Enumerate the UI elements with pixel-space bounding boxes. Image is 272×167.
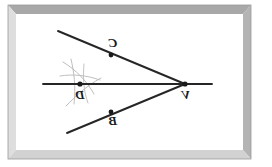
geometry-diagram: V C B D: [0, 0, 272, 167]
beveled-frame: [8, 5, 251, 159]
frame-right-bevel: [243, 5, 251, 159]
point-label-V: V: [180, 87, 190, 102]
figure-root: V C B D: [0, 0, 272, 167]
point-label-B: B: [108, 113, 118, 128]
point-marker-D: [77, 81, 82, 86]
frame-left-bevel: [8, 5, 16, 159]
point-label-D: D: [75, 87, 86, 102]
point-marker-C: [109, 53, 114, 58]
point-label-C: C: [108, 35, 117, 50]
frame-inner-canvas: [16, 14, 243, 150]
frame-top-bevel: [8, 5, 251, 14]
point-marker-V: [182, 81, 187, 86]
frame-bottom-bevel: [8, 150, 251, 159]
